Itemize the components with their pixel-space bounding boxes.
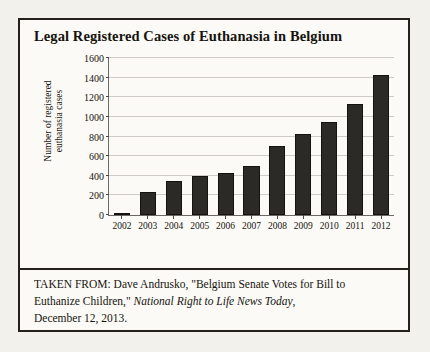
x-tick-label: 2006 xyxy=(213,221,239,231)
x-tick-mark xyxy=(147,215,148,219)
x-tick-mark xyxy=(355,215,356,219)
x-tick-slot xyxy=(239,215,265,220)
bar-slot xyxy=(187,58,213,215)
bar xyxy=(269,146,285,215)
bar xyxy=(373,75,389,216)
x-tick-mark xyxy=(225,215,226,219)
caption-source-title: National Right to Life News Today xyxy=(134,295,293,307)
figure-caption: TAKEN FROM: Dave Andrusko, "Belgium Sena… xyxy=(34,276,396,327)
x-tick-slot xyxy=(290,215,316,220)
bar-slot xyxy=(135,58,161,215)
caption-line-2-prefix: Euthanize Children," xyxy=(34,295,131,307)
bar xyxy=(243,166,259,215)
x-tick-label: 2012 xyxy=(368,221,394,231)
x-tick-mark xyxy=(329,215,330,219)
y-tick-label: 1200 xyxy=(84,92,104,103)
figure-container: Legal Registered Cases of Euthanasia in … xyxy=(18,18,410,332)
y-tick-label: 1400 xyxy=(84,72,104,83)
bar-slot xyxy=(161,58,187,215)
bar xyxy=(321,122,337,216)
bar-chart: Number of registered euthanasia cases 02… xyxy=(30,56,400,258)
y-tick-label: 0 xyxy=(99,210,104,221)
x-tick-slot xyxy=(161,215,187,220)
x-tick-label: 2010 xyxy=(316,221,342,231)
bar xyxy=(140,192,156,215)
x-tick-mark xyxy=(303,215,304,219)
bar xyxy=(218,173,234,215)
x-tick-label: 2008 xyxy=(264,221,290,231)
x-tick-label: 2005 xyxy=(187,221,213,231)
y-tick-label: 800 xyxy=(89,131,104,142)
x-tick-mark xyxy=(381,215,382,219)
x-tick-label: 2003 xyxy=(135,221,161,231)
bar-slot xyxy=(342,58,368,215)
y-tick-label: 600 xyxy=(89,151,104,162)
x-tick-slot xyxy=(316,215,342,220)
x-axis-labels: 2002200320042005200620072008200920102011… xyxy=(109,221,394,231)
x-axis-ticks xyxy=(109,215,394,220)
y-tick-label: 1600 xyxy=(84,53,104,64)
y-tick-label: 1000 xyxy=(84,111,104,122)
x-tick-label: 2007 xyxy=(239,221,265,231)
x-tick-label: 2009 xyxy=(290,221,316,231)
x-tick-slot xyxy=(264,215,290,220)
bar xyxy=(295,134,311,215)
x-tick-label: 2004 xyxy=(161,221,187,231)
x-tick-slot xyxy=(109,215,135,220)
x-tick-mark xyxy=(173,215,174,219)
x-tick-slot xyxy=(342,215,368,220)
bar-slot xyxy=(239,58,265,215)
x-tick-label: 2011 xyxy=(342,221,368,231)
x-tick-slot xyxy=(368,215,394,220)
bar-slot xyxy=(316,58,342,215)
caption-line-1: TAKEN FROM: Dave Andrusko, "Belgium Sena… xyxy=(34,278,345,290)
x-tick-mark xyxy=(251,215,252,219)
figure-title: Legal Registered Cases of Euthanasia in … xyxy=(34,28,342,45)
y-axis-title: Number of registered euthanasia cases xyxy=(43,51,65,191)
bar-slot xyxy=(109,58,135,215)
x-tick-label: 2002 xyxy=(109,221,135,231)
bar xyxy=(166,181,182,215)
caption-divider xyxy=(20,268,408,270)
bar xyxy=(192,176,208,215)
plot-area: 02004006008001000120014001600 2002200320… xyxy=(108,58,394,216)
plot-wrapper: 02004006008001000120014001600 2002200320… xyxy=(108,58,394,216)
bar-slot xyxy=(290,58,316,215)
x-tick-mark xyxy=(277,215,278,219)
x-tick-mark xyxy=(121,215,122,219)
y-tick-label: 200 xyxy=(89,190,104,201)
x-tick-slot xyxy=(213,215,239,220)
caption-line-3: December 12, 2013. xyxy=(34,312,127,324)
x-tick-mark xyxy=(199,215,200,219)
bar xyxy=(347,104,363,215)
x-tick-slot xyxy=(135,215,161,220)
bar-slot xyxy=(368,58,394,215)
bar-slot xyxy=(213,58,239,215)
bar-slot xyxy=(264,58,290,215)
x-tick-slot xyxy=(187,215,213,220)
caption-line-2-suffix: , xyxy=(293,295,296,307)
y-tick-label: 400 xyxy=(89,170,104,181)
bar-series xyxy=(109,58,394,215)
